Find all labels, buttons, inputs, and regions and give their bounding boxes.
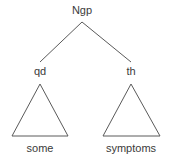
triangle-right-subtree: [103, 84, 160, 136]
syntax-tree-figure: Ngp qd th some symptoms: [0, 0, 172, 160]
leaf-label-left: some: [27, 142, 54, 154]
branch-root-to-left-child: [40, 22, 82, 62]
tree-graphics: [0, 0, 172, 160]
node-label-right-child: th: [126, 65, 135, 77]
branch-root-to-right-child: [82, 22, 131, 62]
triangle-left-subtree: [12, 84, 68, 136]
node-label-left-child: qd: [34, 65, 46, 77]
leaf-label-right: symptoms: [106, 142, 156, 154]
node-label-root: Ngp: [72, 4, 92, 16]
